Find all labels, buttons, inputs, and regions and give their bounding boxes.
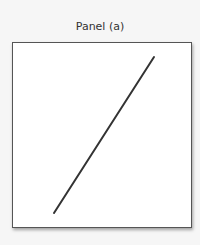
diagonal-line [54, 57, 154, 213]
line-plot [13, 43, 193, 229]
figure-card: Panel (a) [0, 0, 200, 245]
panel-title: Panel (a) [0, 20, 200, 33]
plot-frame [12, 42, 192, 228]
